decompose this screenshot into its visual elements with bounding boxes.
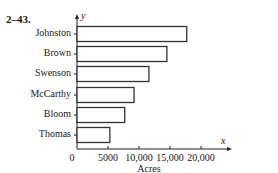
bar-swenson (77, 67, 149, 82)
bar-johnston (77, 27, 187, 42)
x-axis-arrow-icon (227, 147, 232, 151)
x-tick-label: 20,000 (187, 152, 215, 163)
category-label: Bloom (1, 108, 71, 119)
x-tick-label: 15,000 (156, 152, 184, 163)
y-axis-symbol: y (81, 10, 85, 21)
x-tick-label: 10,000 (125, 152, 153, 163)
y-axis-arrow-icon (75, 14, 79, 19)
bar-thomas (77, 128, 110, 143)
category-label: Johnston (1, 27, 71, 38)
category-label: Brown (1, 47, 71, 58)
x-tick-label: 5000 (98, 152, 118, 163)
bar-mccarthy (77, 88, 134, 103)
category-label: McCarthy (1, 88, 71, 99)
category-label: Thomas (1, 128, 71, 139)
x-axis-label: Acres (137, 163, 160, 173)
x-axis-symbol: x (221, 135, 225, 146)
bar-brown (77, 47, 167, 62)
bar-bloom (77, 108, 125, 123)
category-label: Swenson (1, 67, 71, 78)
x-tick-label: 0 (70, 152, 75, 163)
bar-chart (0, 0, 278, 173)
